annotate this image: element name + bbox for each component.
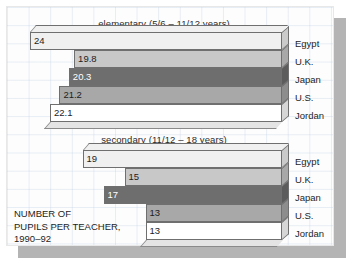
bar-value-label: 17 [108, 188, 119, 201]
bar-front-face [146, 222, 283, 240]
caption-line-2: PUPILS PER TEACHER, [14, 221, 120, 234]
bar-value-label: 21.2 [63, 88, 82, 101]
category-label-jordan: Jordan [295, 227, 324, 240]
bar-bottom-face [139, 240, 282, 247]
bar-front-face [83, 150, 283, 168]
bar-value-label: 19.8 [78, 52, 97, 65]
bar-front-face [30, 32, 282, 50]
category-label-japan: Japan [295, 73, 321, 86]
bar-front-face [146, 204, 283, 222]
bar-front-face [69, 68, 282, 86]
chart-figure: elementary (5/6 – 11/12 years) 22.121.22… [0, 0, 359, 271]
bar-front-face [104, 186, 283, 204]
caption-line-1: NUMBER OF [14, 208, 120, 221]
bar-bottom-face [44, 122, 282, 129]
bar-value-label: 15 [129, 170, 140, 183]
category-label-us: U.S. [295, 91, 313, 104]
bar-us: 21.2 [59, 86, 282, 104]
category-label-egypt: Egypt [295, 37, 319, 50]
bar-top-face [30, 25, 288, 32]
bar-value-label: 22.1 [54, 106, 73, 119]
bar-top-face [83, 143, 289, 150]
bar-value-label: 19 [87, 152, 98, 165]
bar-egypt: 19 [83, 150, 283, 168]
bar-front-face [74, 50, 282, 68]
bar-japan: 17 [104, 186, 283, 204]
category-label-jordan: Jordan [295, 109, 324, 122]
category-label-egypt: Egypt [295, 155, 319, 168]
category-label-uk: U.K. [295, 173, 313, 186]
bar-value-label: 13 [150, 224, 161, 237]
category-label-uk: U.K. [295, 55, 313, 68]
chart-panel-elementary: elementary (5/6 – 11/12 years) 22.121.22… [0, 6, 328, 131]
bar-value-label: 24 [34, 34, 45, 47]
category-label-us: U.S. [295, 209, 313, 222]
bar-egypt: 24 [30, 32, 282, 50]
bar-value-label: 13 [150, 206, 161, 219]
bar-front-face [59, 86, 282, 104]
category-label-japan: Japan [295, 191, 321, 204]
bar-value-label: 20.3 [73, 70, 92, 83]
caption-line-3: 1990–92 [14, 233, 120, 246]
bar-uk: 19.8 [74, 50, 282, 68]
bar-japan: 20.3 [69, 68, 282, 86]
bar-jordan: 22.1 [50, 104, 282, 122]
bar-jordan: 13 [146, 222, 283, 240]
bar-front-face [125, 168, 283, 186]
bar-us: 13 [146, 204, 283, 222]
bar-front-face [50, 104, 282, 122]
bar-uk: 15 [125, 168, 283, 186]
figure-caption: NUMBER OF PUPILS PER TEACHER, 1990–92 [14, 208, 120, 246]
